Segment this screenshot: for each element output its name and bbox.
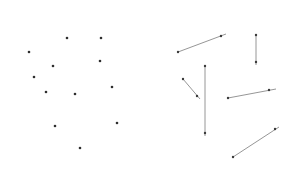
segment-start-point bbox=[232, 156, 234, 158]
point-1 bbox=[66, 37, 69, 40]
diagram-canvas bbox=[0, 0, 306, 187]
segment-start-point bbox=[182, 78, 184, 80]
point-4 bbox=[99, 60, 102, 63]
segment-1 bbox=[177, 34, 226, 53]
diagram-svg bbox=[0, 0, 306, 187]
points-panel bbox=[28, 37, 119, 150]
segment-end-point bbox=[255, 61, 257, 63]
point-9 bbox=[74, 93, 77, 96]
segment-start-point bbox=[255, 34, 257, 36]
segment-6 bbox=[232, 127, 279, 158]
segment-start-point bbox=[227, 97, 229, 99]
segment-5 bbox=[227, 89, 276, 99]
segment-end-point bbox=[268, 89, 270, 91]
segment-2 bbox=[255, 34, 257, 65]
point-11 bbox=[116, 122, 119, 125]
point-12 bbox=[79, 147, 82, 150]
segment-line bbox=[233, 127, 279, 157]
segment-end-point bbox=[196, 95, 198, 97]
point-8 bbox=[45, 91, 48, 94]
point-7 bbox=[111, 86, 114, 89]
point-5 bbox=[52, 65, 55, 68]
segment-end-point bbox=[220, 35, 222, 37]
segment-start-point bbox=[177, 51, 179, 53]
point-10 bbox=[54, 125, 57, 128]
segment-4 bbox=[182, 78, 200, 99]
segment-3 bbox=[204, 65, 206, 136]
vectors-panel bbox=[177, 34, 279, 158]
segment-end-point bbox=[204, 132, 206, 134]
point-2 bbox=[100, 37, 103, 40]
point-3 bbox=[28, 51, 31, 54]
point-6 bbox=[33, 76, 36, 79]
segment-line bbox=[178, 34, 226, 52]
segment-start-point bbox=[204, 65, 206, 67]
segment-end-point bbox=[274, 128, 276, 130]
